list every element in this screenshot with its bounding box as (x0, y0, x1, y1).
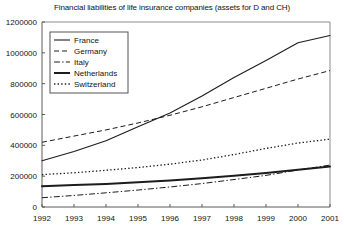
chart-legend: FranceGermanyItalyNetherlandsSwitzerland (50, 32, 128, 93)
series-line-netherlands (42, 167, 330, 187)
x-axis-tick-label: 1992 (33, 214, 51, 223)
y-axis-tick-label: 0 (33, 203, 38, 212)
x-axis-tick-label: 1996 (161, 214, 179, 223)
legend-label-italy: Italy (74, 58, 89, 67)
legend-label-germany: Germany (74, 47, 107, 56)
x-axis-tick-label: 2000 (289, 214, 307, 223)
chart-container: Financial liabilities of life insurance … (0, 0, 344, 239)
x-axis-tick-label: 2001 (321, 214, 339, 223)
x-axis-tick-label: 1997 (193, 214, 211, 223)
x-axis-tick-label: 1994 (97, 214, 115, 223)
x-axis-tick-label: 1995 (129, 214, 147, 223)
y-axis-tick-label: 1200000 (6, 18, 38, 27)
legend-label-switzerland: Switzerland (74, 80, 115, 89)
legend-label-netherlands: Netherlands (74, 69, 117, 78)
y-axis-tick-label: 200000 (10, 172, 37, 181)
y-axis-tick-label: 800000 (10, 80, 37, 89)
legend-label-france: France (74, 36, 99, 45)
y-axis-tick-label: 400000 (10, 141, 37, 150)
y-axis-tick-label: 600000 (10, 111, 37, 120)
series-line-switzerland (42, 139, 330, 174)
x-axis-tick-label: 1998 (225, 214, 243, 223)
y-axis-tick-label: 1000000 (6, 49, 38, 58)
x-axis-tick-label: 1993 (65, 214, 83, 223)
y-axis-ticks: 020000040000060000080000010000001200000 (6, 18, 45, 212)
x-axis-tick-label: 1999 (257, 214, 275, 223)
chart-plot: 020000040000060000080000010000001200000 … (0, 0, 344, 239)
